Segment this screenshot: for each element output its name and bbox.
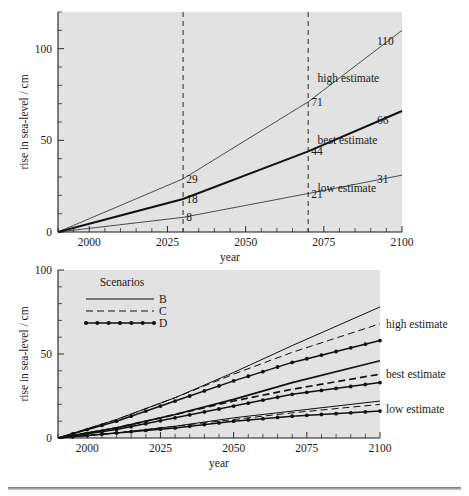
plot-background (58, 12, 402, 232)
y-axis-title: rise in sea-level / cm (18, 74, 30, 169)
series-marker (202, 423, 206, 427)
plot-background (58, 270, 380, 438)
x-tick-label: 2025 (156, 236, 179, 248)
series-marker (217, 421, 221, 425)
series-marker (261, 370, 265, 374)
series-marker (129, 414, 133, 418)
series-marker (173, 399, 177, 403)
x-tick-label: 2075 (312, 236, 335, 248)
series-marker (378, 339, 382, 343)
series-marker (246, 418, 250, 422)
y-tick-label: 100 (35, 264, 53, 276)
series-marker (144, 429, 148, 433)
chart-panel-top: 20002025205020752100year050100rise in se… (0, 0, 469, 252)
series-marker (246, 374, 250, 378)
x-tick-label: 2000 (76, 442, 99, 454)
series-marker (100, 432, 104, 436)
series-marker (71, 435, 75, 439)
series-marker (305, 390, 309, 394)
value-annotation-29: 29 (186, 173, 198, 185)
series-marker (173, 416, 177, 420)
series-marker (232, 404, 236, 408)
series-marker (217, 407, 221, 411)
series-label-high-estimate: high estimate (318, 72, 380, 85)
series-marker (202, 410, 206, 414)
y-tick-label: 50 (41, 134, 53, 146)
value-annotation-44: 44 (311, 145, 323, 157)
series-marker (85, 434, 89, 438)
series-marker (334, 350, 338, 354)
series-label-low-estimate: low estimate (318, 182, 376, 194)
value-annotation-110: 110 (377, 35, 394, 47)
series-marker (378, 409, 382, 413)
x-axis-title: year (209, 457, 229, 470)
series-marker (305, 357, 309, 361)
series-marker (144, 409, 148, 413)
series-marker (246, 401, 250, 405)
series-marker (129, 425, 133, 429)
footer-divider-rule (8, 487, 461, 490)
series-marker (290, 361, 294, 365)
series-marker (232, 419, 236, 423)
series-marker (115, 428, 119, 432)
x-tick-label: 2050 (234, 236, 257, 248)
legend-marker (129, 321, 133, 325)
series-marker (276, 365, 280, 369)
series-marker (261, 398, 265, 402)
series-marker (115, 419, 119, 423)
series-marker (320, 353, 324, 357)
series-marker (159, 419, 163, 423)
x-tick-label: 2075 (295, 442, 318, 454)
series-marker (100, 424, 104, 428)
y-tick-label: 0 (46, 226, 52, 238)
series-marker (188, 394, 192, 398)
series-marker (261, 417, 265, 421)
legend-label-B: B (159, 293, 167, 305)
series-marker (202, 389, 206, 393)
y-axis-title: rise in sea-level / cm (18, 306, 30, 401)
series-marker (232, 379, 236, 383)
series-marker (320, 413, 324, 417)
y-tick-label: 100 (35, 43, 53, 55)
x-tick-label: 2100 (391, 236, 414, 248)
legend-label-D: D (159, 317, 167, 329)
x-tick-label: 2050 (222, 442, 245, 454)
series-marker (217, 384, 221, 388)
series-marker (378, 381, 382, 385)
group-label-low-estimate: low estimate (386, 403, 444, 415)
value-annotation-66: 66 (377, 114, 389, 126)
series-marker (363, 410, 367, 414)
series-marker (349, 411, 353, 415)
chart-panel-bottom: 20002025205020752100year050100rise in se… (0, 252, 469, 478)
series-marker (173, 426, 177, 430)
legend-marker (118, 321, 122, 325)
legend-marker (141, 321, 145, 325)
value-annotation-8: 8 (186, 211, 192, 223)
series-marker (115, 431, 119, 435)
legend-marker (152, 321, 156, 325)
series-marker (188, 413, 192, 417)
legend-marker (95, 321, 99, 325)
series-marker (159, 427, 163, 431)
series-marker (129, 430, 133, 434)
series-marker (290, 414, 294, 418)
value-annotation-18: 18 (186, 193, 198, 205)
series-marker (320, 389, 324, 393)
legend-marker (84, 321, 88, 325)
series-marker (144, 422, 148, 426)
legend-marker (107, 321, 111, 325)
series-marker (349, 385, 353, 389)
series-marker (349, 346, 353, 350)
series-marker (276, 416, 280, 420)
series-marker (363, 342, 367, 346)
series-marker (85, 428, 89, 432)
value-annotation-31: 31 (377, 173, 389, 185)
series-marker (188, 424, 192, 428)
x-tick-label: 2025 (149, 442, 172, 454)
bottom-chart-svg: 20002025205020752100year050100rise in se… (0, 252, 469, 478)
series-marker (276, 395, 280, 399)
series-marker (159, 404, 163, 408)
legend-title: Scenarios (100, 276, 145, 288)
value-annotation-71: 71 (311, 96, 323, 108)
group-label-high-estimate: high estimate (386, 318, 448, 331)
